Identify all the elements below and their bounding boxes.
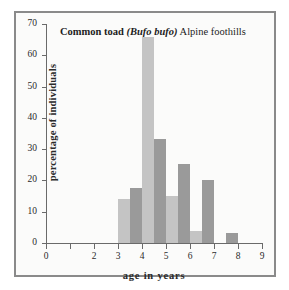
y-tick-label: 50 [28, 81, 38, 91]
x-tick-label: 4 [136, 251, 148, 261]
y-axis-line [46, 24, 47, 244]
x-tick-label: 3 [112, 251, 124, 261]
y-tick-label: 40 [28, 112, 38, 122]
x-tick: 4 [142, 244, 143, 249]
bar-series-dark-7.5 [226, 233, 238, 243]
y-tick: 40 [42, 118, 46, 119]
bar-series-dark-5.5 [178, 164, 190, 243]
x-tick: 2 [94, 244, 95, 249]
x-tick-label: 6 [184, 251, 196, 261]
x-axis-label: age in years [46, 270, 262, 281]
x-tick: 5 [166, 244, 167, 249]
y-tick-label: 60 [28, 49, 38, 59]
x-tick [70, 244, 71, 249]
x-tick-label: 7 [208, 251, 220, 261]
x-tick: 8 [238, 244, 239, 249]
y-tick-label: 10 [28, 206, 38, 216]
x-tick: 3 [118, 244, 119, 249]
bar-series-light-5 [166, 196, 178, 243]
x-tick-label: 9 [256, 251, 268, 261]
y-tick: 20 [42, 180, 46, 181]
x-axis-line [46, 243, 263, 244]
y-tick-label: 0 [32, 237, 37, 247]
x-tick-label: 8 [232, 251, 244, 261]
bar-series-dark-3.5 [130, 188, 142, 243]
y-tick: 70 [42, 24, 46, 25]
x-tick-label: 5 [160, 251, 172, 261]
x-tick: 7 [214, 244, 215, 249]
y-tick: 50 [42, 87, 46, 88]
chart-figure: Common toad (Bufo bufo) Alpine foothills… [0, 0, 289, 290]
x-tick: 6 [190, 244, 191, 249]
y-tick-label: 70 [28, 18, 38, 28]
x-tick: 9 [262, 244, 263, 249]
x-tick-label: 2 [88, 251, 100, 261]
x-tick: 0 [46, 244, 47, 249]
bar-series-dark-6.5 [202, 180, 214, 243]
bar-series-light-6 [190, 231, 202, 243]
y-tick-label: 20 [28, 174, 38, 184]
y-tick: 10 [42, 212, 46, 213]
bar-series-light-4 [142, 37, 154, 243]
bar-series-dark-4.5 [154, 139, 166, 243]
bar-series-light-3 [118, 199, 130, 243]
y-tick-label: 30 [28, 143, 38, 153]
y-tick: 60 [42, 55, 46, 56]
y-tick: 30 [42, 149, 46, 150]
chart-panel: Common toad (Bufo bufo) Alpine foothills… [14, 11, 276, 277]
x-tick-label: 0 [40, 251, 52, 261]
plot-area: 010203040506070 023456789 [46, 24, 262, 243]
